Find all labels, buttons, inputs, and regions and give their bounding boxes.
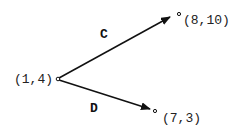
vector-d-label: D	[90, 101, 98, 116]
vector-d-line	[59, 80, 150, 109]
c-end-point	[177, 12, 180, 15]
origin-point	[56, 77, 60, 81]
origin-label: (1,4)	[14, 72, 53, 87]
d-end-label: (7,3)	[162, 111, 201, 126]
vector-c-label: C	[100, 27, 108, 42]
vector-diagram: (1,4) (8,10) (7,3) C D	[0, 0, 243, 131]
d-end-point	[153, 109, 156, 112]
c-end-label: (8,10)	[183, 13, 230, 28]
vector-c-line	[59, 17, 170, 78]
